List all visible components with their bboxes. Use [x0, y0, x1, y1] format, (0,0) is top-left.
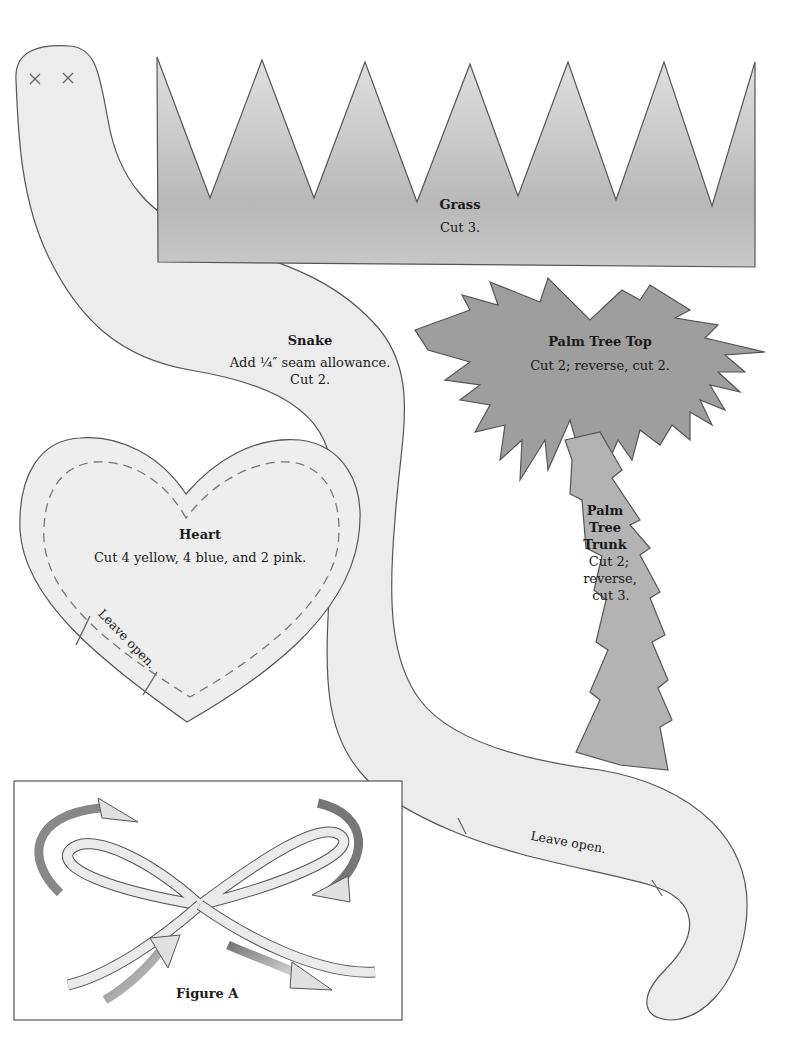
palm-tree-top-title: Palm Tree Top — [500, 333, 700, 350]
snake-title: Snake — [200, 332, 420, 349]
heart-pattern — [20, 438, 360, 722]
palm-tree-trunk-title-3: Trunk — [565, 536, 645, 553]
palm-tree-trunk-instruction-2: reverse, — [565, 570, 645, 587]
snake-instruction-1: Add ¼″ seam allowance. — [200, 354, 420, 371]
palm-tree-trunk-title-1: Palm — [565, 502, 645, 519]
grass-instruction: Cut 3. — [410, 219, 510, 236]
figure-a — [14, 781, 402, 1020]
grass-title: Grass — [410, 196, 510, 213]
snake-instruction-2: Cut 2. — [200, 371, 420, 388]
heart-label: Heart Cut 4 yellow, 4 blue, and 2 pink. — [70, 526, 330, 566]
palm-tree-trunk-instruction-3: cut 3. — [565, 587, 645, 604]
grass-label: Grass Cut 3. — [410, 196, 510, 236]
palm-tree-trunk-label: Palm Tree Trunk Cut 2; reverse, cut 3. — [565, 502, 645, 604]
figure-a-caption: Figure A — [176, 986, 238, 1001]
palm-tree-trunk-title-2: Tree — [565, 519, 645, 536]
heart-title: Heart — [70, 526, 330, 543]
heart-instruction: Cut 4 yellow, 4 blue, and 2 pink. — [70, 549, 330, 566]
snake-label: Snake Add ¼″ seam allowance. Cut 2. — [200, 332, 420, 388]
palm-tree-top-label: Palm Tree Top Cut 2; reverse, cut 2. — [500, 333, 700, 374]
palm-tree-top-instruction: Cut 2; reverse, cut 2. — [500, 357, 700, 374]
palm-tree-trunk-instruction-1: Cut 2; — [565, 553, 645, 570]
